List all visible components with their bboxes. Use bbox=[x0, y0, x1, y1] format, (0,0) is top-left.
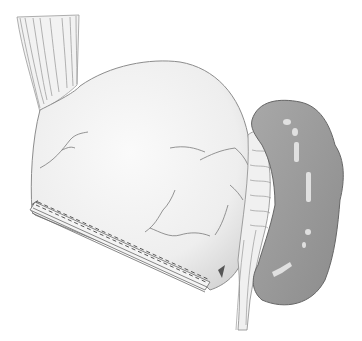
anatomical-illustration bbox=[0, 0, 362, 341]
illustration-svg bbox=[0, 0, 362, 341]
